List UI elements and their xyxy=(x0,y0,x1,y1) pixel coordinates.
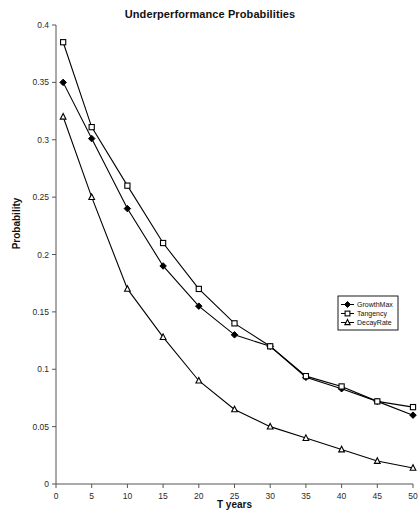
data-point-marker xyxy=(410,412,417,419)
data-point-marker xyxy=(124,205,130,212)
data-point-marker xyxy=(303,435,309,441)
data-point-marker xyxy=(374,458,380,464)
y-axis-tick-label: 0.15 xyxy=(32,307,49,317)
data-point-marker xyxy=(268,344,273,349)
data-point-marker xyxy=(60,79,67,86)
axes: 00.050.10.150.20.250.30.350.405101520253… xyxy=(32,20,418,501)
y-axis-tick-label: 0.35 xyxy=(32,77,49,87)
data-point-marker xyxy=(125,183,130,188)
data-point-marker xyxy=(375,399,380,404)
x-axis-tick-label: 5 xyxy=(89,491,94,501)
plot-svg: 00.050.10.150.20.250.30.350.405101520253… xyxy=(0,0,420,524)
data-point-marker xyxy=(89,194,95,200)
data-point-marker xyxy=(303,374,308,379)
chart-container: Underperformance Probabilities Probabili… xyxy=(0,0,420,524)
x-axis-tick-label: 10 xyxy=(123,491,133,501)
data-point-marker xyxy=(88,135,95,142)
data-point-marker xyxy=(232,406,238,412)
x-axis-tick-label: 0 xyxy=(54,491,59,501)
series-line xyxy=(63,82,413,415)
y-axis-tick-label: 0.25 xyxy=(32,192,49,202)
chart-legend: GrowthMaxTangencyDecayRate xyxy=(338,296,398,330)
legend-label: Tangency xyxy=(357,310,387,318)
x-axis-tick-label: 45 xyxy=(373,491,383,501)
data-point-marker xyxy=(196,286,201,291)
legend-label: GrowthMax xyxy=(357,301,393,308)
data-point-marker xyxy=(267,423,273,429)
x-axis-tick-label: 15 xyxy=(158,491,168,501)
y-axis-tick-label: 0 xyxy=(44,479,49,489)
y-axis-tick-label: 0.4 xyxy=(37,20,49,30)
x-axis-tick-label: 40 xyxy=(337,491,347,501)
y-axis-tick-label: 0.3 xyxy=(37,135,49,145)
series-decayrate xyxy=(60,114,416,471)
data-series-layer xyxy=(60,40,416,471)
data-point-marker xyxy=(161,240,166,245)
y-axis-tick-label: 0.2 xyxy=(37,250,49,260)
data-point-marker xyxy=(60,114,66,120)
data-point-marker xyxy=(410,465,416,471)
series-tangency xyxy=(61,40,416,410)
y-axis-tick-label: 0.05 xyxy=(32,422,49,432)
x-axis-tick-label: 50 xyxy=(408,491,418,501)
data-point-marker xyxy=(89,125,94,130)
data-point-marker xyxy=(410,405,415,410)
series-growthmax xyxy=(60,79,416,418)
legend-marker xyxy=(345,311,350,316)
y-axis-tick-label: 0.1 xyxy=(37,364,49,374)
legend-label: DecayRate xyxy=(357,319,392,327)
data-point-marker xyxy=(61,40,66,45)
x-axis-tick-label: 35 xyxy=(301,491,311,501)
x-axis-tick-label: 25 xyxy=(230,491,240,501)
series-line xyxy=(63,117,413,468)
data-point-marker xyxy=(125,286,131,292)
x-axis-tick-label: 30 xyxy=(265,491,275,501)
x-axis-tick-label: 20 xyxy=(194,491,204,501)
data-point-marker xyxy=(232,321,237,326)
series-line xyxy=(63,42,413,407)
data-point-marker xyxy=(339,384,344,389)
data-point-marker xyxy=(339,446,345,452)
